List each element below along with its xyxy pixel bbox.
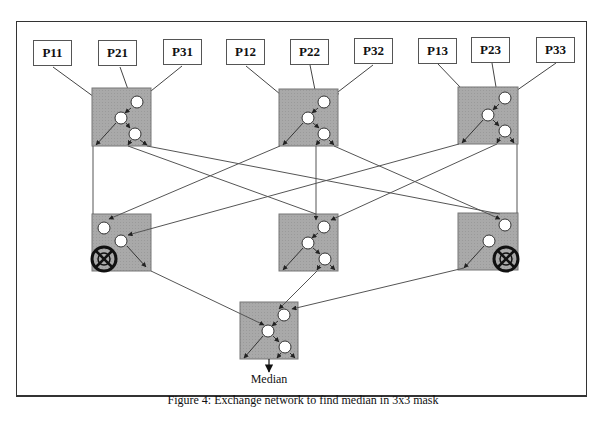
node-bottom	[240, 302, 298, 359]
node-middle-2	[279, 214, 338, 271]
input-box-p23: P23	[471, 37, 510, 63]
node-top-2	[279, 89, 338, 146]
input-box-p33: P33	[536, 37, 575, 63]
node-middle-3	[458, 213, 518, 271]
figure-caption: Figure 4: Exchange network to find media…	[100, 393, 506, 408]
input-box-p11: P11	[33, 40, 72, 66]
input-box-p13: P13	[418, 38, 457, 64]
input-box-p31: P31	[163, 39, 202, 65]
comparator-nodes	[92, 87, 518, 359]
node-middle-1	[92, 214, 151, 271]
output-label-median: Median	[229, 372, 309, 387]
input-box-p21: P21	[98, 40, 137, 66]
node-top-3	[458, 87, 518, 144]
input-box-p32: P32	[354, 38, 393, 64]
node-top-1	[92, 88, 151, 146]
input-box-p22: P22	[290, 39, 329, 65]
input-box-p12: P12	[226, 39, 265, 65]
